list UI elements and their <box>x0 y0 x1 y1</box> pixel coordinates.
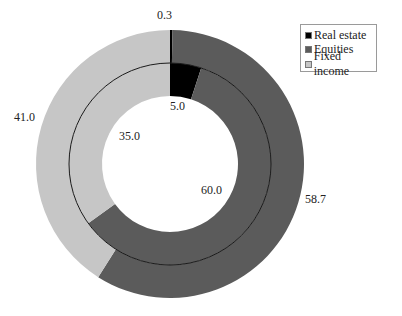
legend-item-fixed-income: Fixed income <box>305 57 376 72</box>
label-inner-fixed-income: 35.0 <box>119 130 140 142</box>
label-inner-real-estate: 5.0 <box>170 100 185 112</box>
legend-swatch-real-estate <box>305 32 312 39</box>
legend-item-real-estate: Real estate <box>305 28 376 43</box>
legend-swatch-fixed-income <box>305 61 312 68</box>
legend-label: Fixed income <box>314 49 376 79</box>
legend-label: Real estate <box>314 28 366 43</box>
legend-swatch-equities <box>305 46 312 53</box>
label-outer-equities: 58.7 <box>305 193 326 205</box>
inner-ring <box>69 63 271 265</box>
label-inner-equities: 60.0 <box>201 184 222 196</box>
legend: Real estate Equities Fixed income <box>300 24 377 72</box>
label-outer-fixed-income: 41.0 <box>14 111 35 123</box>
label-outer-real-estate: 0.3 <box>157 9 172 21</box>
